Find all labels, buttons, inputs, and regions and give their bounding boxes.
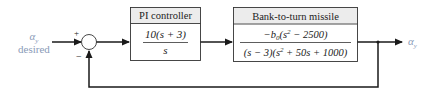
output-label: αy <box>408 35 418 50</box>
pi-controller-block: PI controller 10(s + 3) s <box>131 8 201 61</box>
pi-denominator: s <box>163 44 167 56</box>
missile-denominator: (s − 3)(s2 + 50s + 1000) <box>244 46 348 59</box>
plus-sign: + <box>74 28 79 38</box>
pi-numerator: 10(s + 3) <box>145 28 186 41</box>
summing-junction <box>82 35 97 50</box>
missile-numerator: −b0(s2 − 2500) <box>264 28 328 42</box>
missile-title: Bank-to-turn missile <box>252 11 339 22</box>
input-desired-text: desired <box>18 43 50 55</box>
input-label: αy desired <box>18 30 50 55</box>
missile-block: Bank-to-turn missile −b0(s2 − 2500) (s −… <box>234 8 358 62</box>
minus-sign: − <box>76 51 82 62</box>
block-diagram: αy desired + − PI controller 10(s + 3) s… <box>0 0 432 97</box>
pi-title: PI controller <box>139 10 192 21</box>
